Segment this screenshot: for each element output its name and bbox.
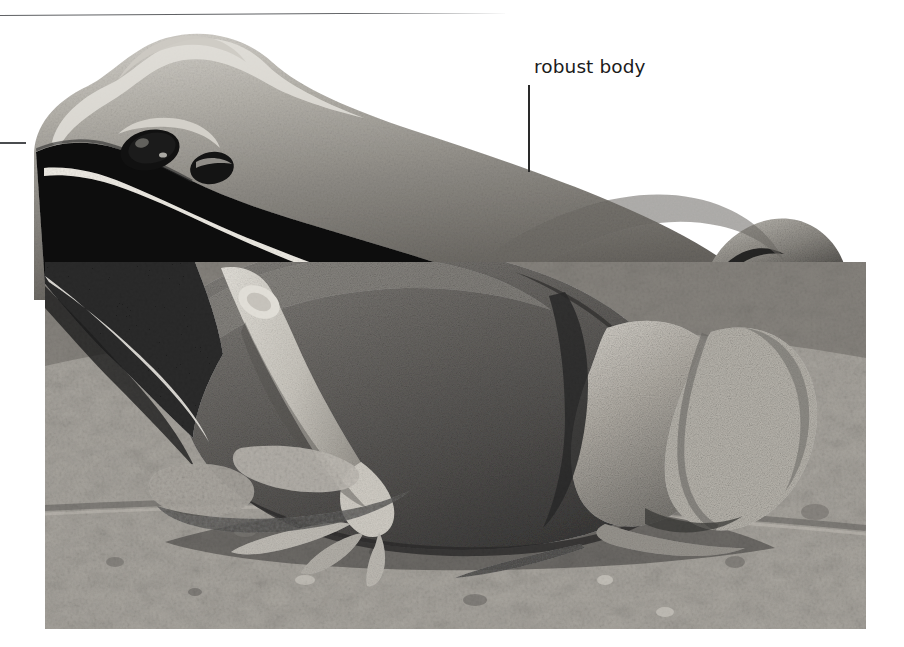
frog-photograph xyxy=(45,262,866,629)
callout-label: robust body xyxy=(534,58,646,77)
frog-figure: robust body xyxy=(0,0,904,647)
frog-upper-body-on-paper xyxy=(0,0,904,300)
callout-leader-line xyxy=(528,85,530,172)
